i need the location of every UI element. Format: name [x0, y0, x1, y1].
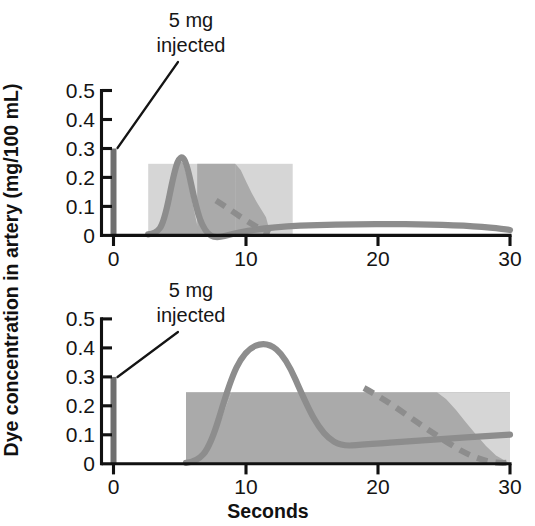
- top-x-label-20: 20: [366, 247, 389, 270]
- top-annotation-line-1: 5 mg: [169, 9, 213, 31]
- top-y-label-0.2: 0.2: [66, 166, 95, 189]
- bottom-annotation-line-1: 5 mg: [169, 279, 213, 301]
- bottom-x-label-20: 20: [366, 475, 389, 498]
- top-annotation-leader-line: [118, 62, 179, 148]
- top-annotation-line-2: injected: [157, 34, 226, 56]
- top-panel: 0.5 0.4 0.3 0.2 0.1 0 0 10 20 30 5 mg in…: [66, 9, 522, 270]
- bottom-x-label-0: 0: [108, 475, 120, 498]
- bottom-y-label-0.5: 0.5: [66, 307, 95, 330]
- top-y-label-0.5: 0.5: [66, 79, 95, 102]
- top-y-label-0.1: 0.1: [66, 195, 95, 218]
- y-axis-title: Dye concentration in artery (mg/100 mL): [0, 84, 22, 457]
- bottom-y-label-0.1: 0.1: [66, 423, 95, 446]
- chart-canvas: Dye concentration in artery (mg/100 mL): [0, 0, 535, 526]
- top-x-label-0: 0: [108, 247, 120, 270]
- top-x-label-10: 10: [234, 247, 257, 270]
- bottom-panel: 0.5 0.4 0.3 0.2 0.1 0 0 10 20 30 5 mg in…: [66, 279, 522, 498]
- bottom-y-label-0: 0: [83, 452, 95, 475]
- bottom-annotation-line-2: injected: [157, 304, 226, 326]
- bottom-x-label-30: 30: [498, 475, 521, 498]
- dye-dilution-figure: Dye concentration in artery (mg/100 mL): [0, 0, 535, 526]
- bottom-x-label-10: 10: [234, 475, 257, 498]
- bottom-y-label-0.4: 0.4: [66, 336, 96, 359]
- top-y-label-0.3: 0.3: [66, 137, 95, 160]
- top-x-label-30: 30: [498, 247, 521, 270]
- bottom-y-label-0.3: 0.3: [66, 365, 95, 388]
- bottom-annotation-leader-line: [118, 332, 179, 377]
- x-axis-title: Seconds: [227, 500, 308, 522]
- bottom-y-label-0.2: 0.2: [66, 394, 95, 417]
- top-y-label-0.4: 0.4: [66, 108, 96, 131]
- top-y-label-0: 0: [83, 224, 95, 247]
